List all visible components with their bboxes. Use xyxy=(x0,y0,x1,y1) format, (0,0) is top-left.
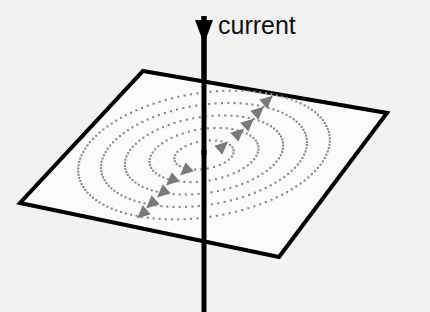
field-line-dot xyxy=(305,135,307,137)
field-line-dot xyxy=(81,154,83,156)
field-line-dot xyxy=(280,154,282,156)
field-line-dot xyxy=(174,160,176,162)
field-line-dot xyxy=(231,146,233,148)
field-line-dot xyxy=(131,179,133,181)
field-line-dot xyxy=(235,211,237,213)
field-line-dot xyxy=(142,186,144,188)
field-line-dot xyxy=(213,127,215,129)
field-line-dot xyxy=(191,206,193,208)
field-line-dot xyxy=(307,107,309,109)
field-line-dot xyxy=(168,124,170,126)
field-line-dot xyxy=(242,116,244,118)
field-line-dot xyxy=(223,189,225,191)
field-line-dot xyxy=(184,218,186,220)
field-line-dot xyxy=(300,182,302,184)
field-line-dot xyxy=(130,112,132,114)
field-line-dot xyxy=(188,131,190,133)
field-line-dot xyxy=(233,149,235,151)
field-line-dot xyxy=(153,103,155,105)
field-line-dot xyxy=(215,140,217,142)
field-line-dot xyxy=(286,191,288,193)
field-line-dot xyxy=(291,99,293,101)
field-line-dot xyxy=(119,135,121,137)
field-line-dot xyxy=(198,193,200,195)
field-line-dot xyxy=(115,209,117,211)
field-line-dot xyxy=(166,139,168,141)
field-line-dot xyxy=(79,158,81,160)
field-line-dot xyxy=(78,161,80,163)
field-line-dot xyxy=(129,198,131,200)
field-line-dot xyxy=(115,138,117,140)
field-line-dot xyxy=(299,160,301,162)
field-line-dot xyxy=(107,148,109,150)
field-line-dot xyxy=(215,178,217,180)
field-line-dot xyxy=(209,139,211,141)
field-line-dot xyxy=(270,93,272,95)
field-line-dot xyxy=(100,164,102,166)
field-line-dot xyxy=(154,148,156,150)
field-line-dot xyxy=(281,151,283,153)
field-line-dot xyxy=(248,194,250,196)
field-line-dot xyxy=(138,201,140,203)
field-line-dot xyxy=(176,108,178,110)
field-line-dot xyxy=(192,117,194,119)
field-line-dot xyxy=(325,125,327,127)
field-line-dot xyxy=(243,167,245,169)
field-line-dot xyxy=(327,128,329,130)
field-line-dot xyxy=(179,193,181,195)
field-line-dot xyxy=(125,212,127,214)
field-line-dot xyxy=(282,145,284,147)
field-line-dot xyxy=(125,171,127,173)
field-line-dot xyxy=(325,154,327,156)
field-line-dot xyxy=(84,189,86,191)
field-line-dot xyxy=(273,128,275,130)
field-line-dot xyxy=(259,91,261,93)
field-line-dot xyxy=(301,157,303,159)
field-line-dot xyxy=(235,185,237,187)
field-line-dot xyxy=(152,170,154,172)
field-line-dot xyxy=(124,168,126,170)
field-line-dot xyxy=(82,151,84,153)
field-line-dot xyxy=(177,218,179,220)
field-line-dot xyxy=(281,138,283,140)
field-line-dot xyxy=(190,143,192,145)
field-line-dot xyxy=(211,191,213,193)
field-line-dot xyxy=(306,141,308,143)
field-line-dot xyxy=(86,144,88,146)
field-line-dot xyxy=(191,193,193,195)
field-line-dot xyxy=(95,135,97,137)
field-line-dot xyxy=(185,194,187,196)
field-line-dot xyxy=(180,148,182,150)
field-line-dot xyxy=(149,158,151,160)
field-line-dot xyxy=(216,215,218,217)
field-line-dot xyxy=(259,203,261,205)
field-line-dot xyxy=(115,120,117,122)
field-line-dot xyxy=(133,200,135,202)
field-line-dot xyxy=(236,198,238,200)
field-line-dot xyxy=(160,205,162,207)
field-line-dot xyxy=(198,205,200,207)
field-line-dot xyxy=(216,90,218,92)
field-line-dot xyxy=(172,206,174,208)
field-line-dot xyxy=(241,209,243,211)
field-line-dot xyxy=(295,185,297,187)
field-line-dot xyxy=(213,166,215,168)
field-line-dot xyxy=(111,123,113,125)
field-line-dot xyxy=(106,206,108,208)
field-line-dot xyxy=(84,148,86,150)
field-line-dot xyxy=(92,197,94,199)
field-line-dot xyxy=(317,167,319,169)
field-line-dot xyxy=(158,174,160,176)
field-line-dot xyxy=(127,174,129,176)
field-line-dot xyxy=(241,183,243,185)
field-line-dot xyxy=(324,157,326,159)
field-line-dot xyxy=(99,201,101,203)
field-line-dot xyxy=(89,194,91,196)
field-line-dot xyxy=(78,174,80,176)
field-line-dot xyxy=(314,111,316,113)
current-label: current xyxy=(218,13,296,38)
field-line-dot xyxy=(230,199,232,201)
field-line-dot xyxy=(89,141,91,143)
field-line-dot xyxy=(220,140,222,142)
field-line-dot xyxy=(101,173,103,175)
